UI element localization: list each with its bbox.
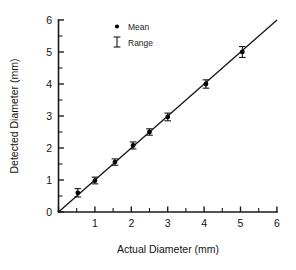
mean-marker [93, 178, 98, 183]
mean-marker [204, 82, 209, 87]
mean-marker [147, 130, 152, 135]
x-tick-label: 4 [201, 217, 207, 229]
y-axis-title: Detected Diameter (mm) [8, 59, 20, 174]
x-tick-label: 2 [128, 217, 134, 229]
y-tick-label: 6 [46, 14, 52, 26]
y-tick-label: 0 [46, 206, 52, 218]
y-tick-label: 5 [46, 46, 52, 58]
mean-marker [75, 190, 80, 195]
mean-marker [240, 50, 245, 55]
x-tick-label: 5 [238, 217, 244, 229]
legend-mean-marker-icon [115, 24, 119, 28]
x-tick-label: 6 [274, 217, 280, 229]
scatter-plot-svg: 0 1 2 3 4 5 6 0 1 2 3 4 5 6 Mean [0, 0, 296, 270]
chart-figure: 0 1 2 3 4 5 6 0 1 2 3 4 5 6 Mean [0, 0, 296, 270]
mean-marker [131, 143, 136, 148]
y-tick-label: 2 [46, 142, 52, 154]
legend-label-mean: Mean [128, 22, 150, 32]
mean-marker [113, 160, 118, 165]
legend-label-range: Range [128, 38, 153, 48]
y-tick-label: 1 [46, 174, 52, 186]
x-axis-title: Actual Diameter (mm) [117, 243, 219, 255]
mean-marker [165, 115, 170, 120]
y-tick-label: 3 [46, 110, 52, 122]
x-tick-label: 3 [165, 217, 171, 229]
y-tick-label: 4 [46, 78, 52, 90]
x-tick-label: 1 [92, 217, 98, 229]
